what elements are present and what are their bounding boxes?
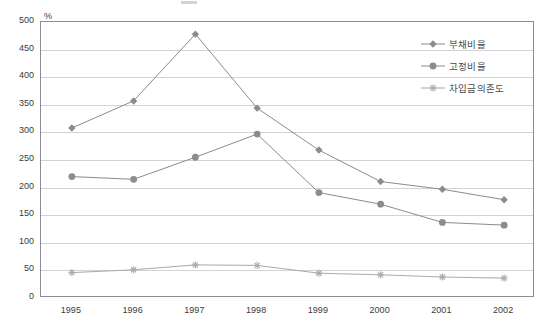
x-axis-tick: 1996 (123, 305, 143, 315)
y-axis-tick-labels: 500450400350300250200150100500 (0, 0, 36, 330)
chart-legend: 부채비율고정비율차입금의존도 (420, 33, 532, 99)
x-axis-tick: 2001 (431, 305, 451, 315)
y-axis-tick: 450 (19, 43, 34, 53)
y-axis-tick: 0 (29, 291, 34, 301)
legend-item-1[interactable]: 고정비율 (420, 55, 532, 77)
y-axis-tick: 300 (19, 125, 34, 135)
legend-item-2[interactable]: 차입금의존도 (420, 77, 532, 99)
legend-item-label: 고정비율 (446, 59, 486, 73)
legend-item-0[interactable]: 부채비율 (420, 33, 532, 55)
circle-marker (420, 59, 446, 73)
x-axis-tick: 2000 (370, 305, 390, 315)
scan-artifact (181, 1, 197, 4)
x-axis-tick: 1998 (246, 305, 266, 315)
x-axis-tick: 2002 (493, 305, 513, 315)
y-axis-tick: 500 (19, 15, 34, 25)
series-asterisk (68, 261, 507, 281)
series-circle (68, 131, 507, 229)
asterisk-marker (420, 81, 446, 95)
y-axis-tick: 200 (19, 181, 34, 191)
legend-item-label: 차입금의존도 (446, 81, 504, 95)
y-axis-tick: 100 (19, 236, 34, 246)
chart-screenshot: % 500450400350300250200150100500 1995199… (0, 0, 550, 330)
y-axis-tick: 50 (24, 263, 34, 273)
x-axis-tick-labels: 19951996199719981999200020012002 (40, 305, 534, 321)
y-axis-tick: 150 (19, 208, 34, 218)
x-axis-tick: 1997 (184, 305, 204, 315)
y-axis-unit-label: % (44, 11, 52, 21)
legend-item-label: 부채비율 (446, 37, 486, 51)
diamond-marker (420, 37, 446, 51)
x-axis-tick: 1995 (61, 305, 81, 315)
x-axis-tick: 1999 (308, 305, 328, 315)
y-axis-tick: 400 (19, 70, 34, 80)
y-axis-tick: 250 (19, 153, 34, 163)
y-axis-tick: 350 (19, 98, 34, 108)
